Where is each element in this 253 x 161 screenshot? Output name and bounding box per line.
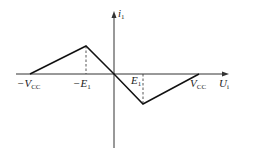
transfer-characteristic-diagram: i1 Ui −VCC −E1 E1 VCC [0, 0, 253, 161]
y-axis-arrow-icon [112, 11, 117, 18]
label-e1: E1 [130, 74, 142, 88]
label-neg-vcc: −VCC [17, 77, 41, 91]
x-axis-label: Ui [219, 77, 229, 91]
label-neg-e1: −E1 [73, 77, 91, 91]
label-vcc: VCC [190, 77, 206, 91]
x-axis-arrow-icon [222, 72, 229, 77]
y-axis-label: i1 [118, 7, 125, 21]
